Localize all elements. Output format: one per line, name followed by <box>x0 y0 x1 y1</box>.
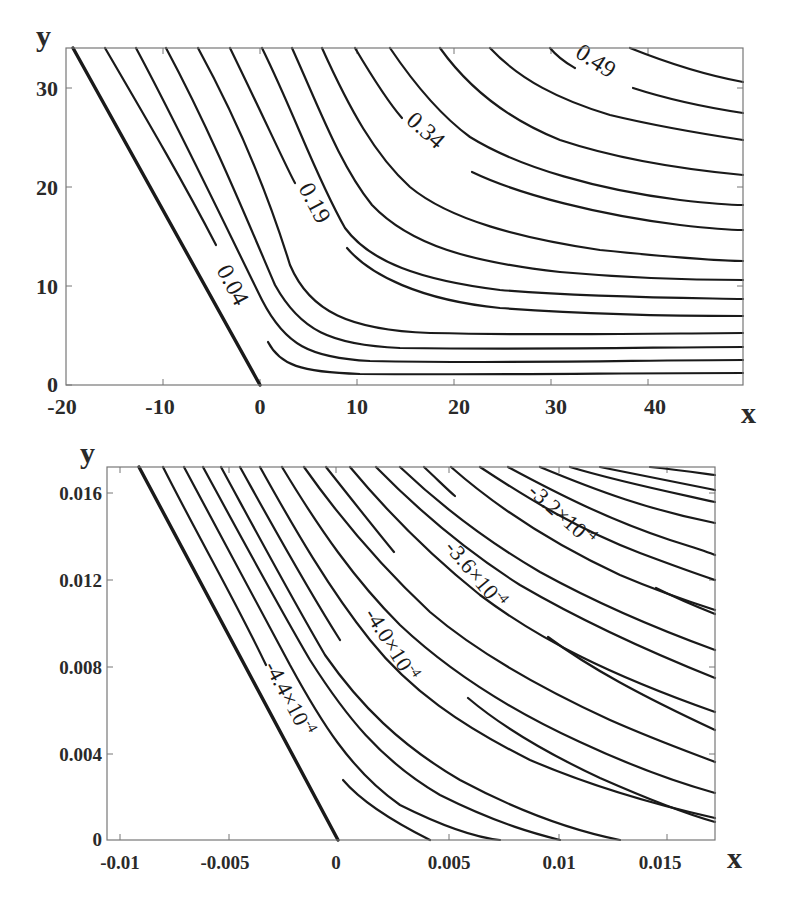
bottom-x-tick-label: -0.01 <box>100 852 140 873</box>
top-x-tick-label: 20 <box>448 394 470 419</box>
bottom-x-tick-label: 0.005 <box>428 852 471 873</box>
bottom-y-tick-label: 0.012 <box>59 570 102 591</box>
bottom-contour-plot: y x 0 0.004 0.008 0.012 0.016 <box>59 436 742 874</box>
contour-label: 0.49 <box>571 38 620 83</box>
top-x-tick-label: -10 <box>145 394 174 419</box>
top-x-tick-label: 0 <box>255 394 266 419</box>
bottom-y-tick-label: 0.008 <box>59 657 102 678</box>
top-contour-lines <box>73 48 743 385</box>
top-x-tick-label: 30 <box>545 394 567 419</box>
top-x-axis-label: x <box>741 396 756 429</box>
bottom-y-tick-label: 0 <box>93 829 103 850</box>
top-x-tick-label: 40 <box>644 394 666 419</box>
bottom-y-tick-label: 0.016 <box>59 483 102 504</box>
bottom-y-tick-label: 0.004 <box>59 744 102 765</box>
contour-label: -4.0×10-4 <box>360 603 425 685</box>
top-y-tick-label: 20 <box>36 175 58 200</box>
figure: y x 0 10 20 30 <box>0 0 788 899</box>
bottom-y-axis-label: y <box>80 436 95 469</box>
bottom-x-tick-label: 0.01 <box>542 852 575 873</box>
top-y-tick-label: 10 <box>36 274 58 299</box>
contour-label: 0.19 <box>294 178 337 227</box>
top-x-tick-label: -20 <box>47 394 76 419</box>
top-x-tick-label: 10 <box>346 394 368 419</box>
bottom-contour-lines <box>139 467 715 840</box>
contour-label: 0.04 <box>212 260 255 309</box>
top-y-axis-label: y <box>36 19 51 52</box>
contour-label: -3.2×10-4 <box>524 477 602 550</box>
bottom-x-axis-label: x <box>727 841 742 874</box>
bottom-x-tick-label: -0.005 <box>200 852 249 873</box>
top-contour-plot: y x 0 10 20 30 <box>36 19 756 429</box>
top-y-tick-label: 30 <box>36 76 58 101</box>
bottom-x-tick-label: 0 <box>331 852 341 873</box>
top-x-ticks: -20 -10 0 10 20 30 40 <box>47 48 666 419</box>
contour-label: -4.4×10-4 <box>260 656 321 740</box>
bottom-x-tick-label: 0.015 <box>639 852 682 873</box>
